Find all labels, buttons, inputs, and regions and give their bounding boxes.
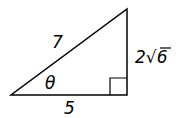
right-angle-marker [110, 78, 127, 95]
angle-label: θ [45, 73, 56, 93]
triangle-diagram: 7 θ 5 2√6 [0, 0, 184, 118]
radical-sign: √ [146, 47, 157, 67]
base-label: 5 [64, 98, 75, 118]
height-radicand: 6 [157, 47, 168, 67]
height-coef: 2 [135, 47, 146, 67]
hypotenuse-label: 7 [52, 32, 63, 52]
height-label: 2√6 [135, 47, 168, 67]
